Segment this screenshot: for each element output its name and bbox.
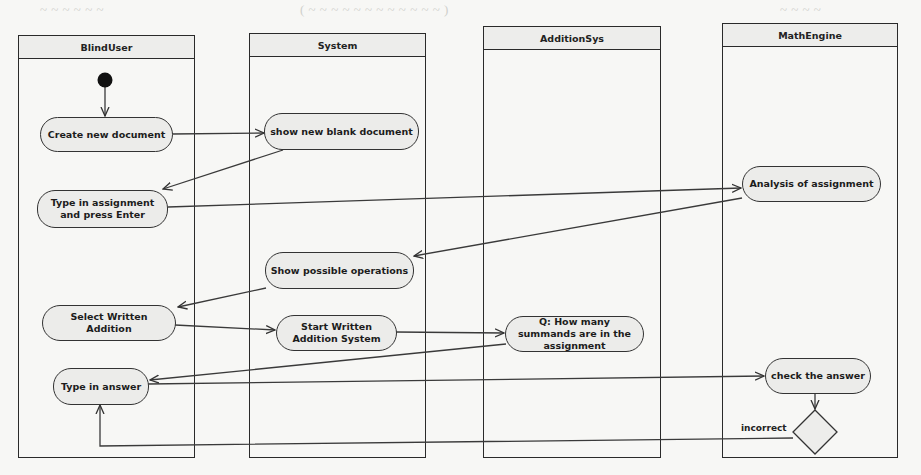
edge-startadd-question: [396, 332, 504, 333]
guard-label-incorrect: incorrect: [741, 423, 787, 433]
activity-type-in-answer[interactable]: Type in answer: [53, 368, 149, 405]
activity-analysis-of-assignment[interactable]: Analysis of assignment: [742, 166, 881, 202]
decision-node: [793, 410, 837, 454]
edge-showblank-typeassign: [163, 150, 283, 189]
activity-create-new-document[interactable]: Create new document: [40, 117, 173, 152]
edge-showops-select: [178, 288, 266, 307]
activity-start-written-addition-system[interactable]: Start Written Addition System: [276, 315, 397, 351]
activity-select-written-addition[interactable]: Select Written Addition: [42, 305, 176, 341]
activity-question-summands[interactable]: Q: How many summands are in the assignme…: [505, 316, 644, 352]
activity-type-in-assignment[interactable]: Type in assignment and press Enter: [37, 190, 168, 228]
edge-decision-typeanswer: [100, 405, 793, 446]
activity-show-possible-operations[interactable]: Show possible operations: [265, 252, 414, 289]
activity-show-new-blank-document[interactable]: show new blank document: [264, 113, 419, 150]
activity-check-the-answer[interactable]: check the answer: [765, 358, 871, 394]
edge-create-showblank: [172, 133, 264, 134]
edge-analysis-showops: [414, 198, 742, 256]
initial-node: [98, 73, 113, 88]
edges-layer: [0, 0, 921, 475]
edge-typeassign-analysis: [168, 188, 741, 207]
edge-select-startadd: [175, 325, 275, 330]
edge-typeanswer-check: [148, 376, 764, 384]
